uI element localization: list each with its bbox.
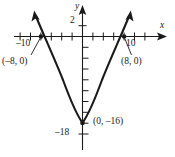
annotation-vertex: (0, –16) [93,117,123,127]
leader-line-left [31,39,40,56]
y-axis-label: y [75,2,79,12]
x-axis-label: x [160,21,164,31]
annotation-x-intercept-right: (8, 0) [121,57,142,67]
annotation-x-intercept-left: (–8, 0) [2,57,27,67]
parabola-figure: –10 10 2 –18 y x (–8, 0) (8, 0) (0, –16) [0,0,175,157]
y-tick-label-2: 2 [70,16,75,26]
point-x-intercept-left [39,34,44,39]
x-tick-label-neg10: –10 [16,39,30,49]
point-vertex [80,121,85,126]
plot-canvas [0,0,175,157]
y-tick-label-neg18: –18 [55,128,69,138]
x-tick-label-10: 10 [126,39,136,49]
